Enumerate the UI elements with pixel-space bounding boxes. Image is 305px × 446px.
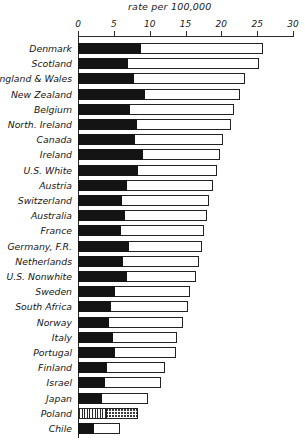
category-label: Chile (49, 423, 72, 434)
bar (78, 377, 161, 388)
x-tick-mark-10 (150, 31, 151, 37)
bar-segment-dark (78, 362, 107, 373)
bar-segment-dark (78, 119, 137, 130)
category-label: Scotland (32, 58, 72, 69)
bar (78, 149, 220, 160)
category-label: U.S. Nonwhite (6, 271, 72, 282)
bar-segment-dark (78, 286, 115, 297)
category-label: France (40, 225, 72, 236)
bar-row: Poland (0, 408, 305, 419)
bar-segment-dark (78, 423, 94, 434)
axis-title: rate per 100,000 (128, 1, 212, 12)
bar-segment-dark (78, 58, 128, 69)
bar-row: Denmark (0, 43, 305, 54)
bar-segment-dark (78, 149, 143, 160)
bar (78, 286, 190, 297)
bar (78, 225, 204, 236)
bar-segment-dark (78, 271, 127, 282)
bar (78, 119, 231, 130)
x-axis-tick-labels: 051015202530 (0, 19, 305, 32)
bar-row: Canada (0, 134, 305, 145)
category-label: U.S. White (23, 165, 72, 176)
bar-row: Belgium (0, 104, 305, 115)
category-label: Portugal (33, 347, 72, 358)
category-label: Israel (47, 377, 72, 388)
bar-row: New Zealand (0, 89, 305, 100)
category-label: Norway (37, 317, 72, 328)
bar (78, 241, 202, 252)
bar-row: Austria (0, 180, 305, 191)
bar (78, 89, 240, 100)
bar (78, 58, 259, 69)
bar-segment-dark (78, 347, 115, 358)
bar-row: North. Ireland (0, 119, 305, 130)
bar-row: Switzerland (0, 195, 305, 206)
bar (78, 347, 176, 358)
bar-row: Sweden (0, 286, 305, 297)
bar (78, 134, 223, 145)
x-tick-label-25: 25 (251, 19, 262, 29)
bar-row: Israel (0, 377, 305, 388)
bar-segment-dark (78, 134, 135, 145)
bar (78, 43, 263, 54)
category-label: Belgium (34, 104, 72, 115)
bar-segment-dark (78, 377, 105, 388)
x-tick-label-30: 30 (287, 19, 298, 29)
category-label: Sweden (35, 286, 72, 297)
bar (78, 165, 217, 176)
bar-row: Ireland (0, 149, 305, 160)
bar-segment-dark (78, 195, 122, 206)
bar-segment-dark (78, 317, 109, 328)
bar-row: Germany, F.R. (0, 241, 305, 252)
bar-segment-dark (78, 73, 134, 84)
bar-row: Italy (0, 332, 305, 343)
bar-row: U.S. Nonwhite (0, 271, 305, 282)
x-tick-label-20: 20 (216, 19, 227, 29)
bar-row: U.S. White (0, 165, 305, 176)
bar-row: South Africa (0, 301, 305, 312)
category-label: Netherlands (15, 256, 72, 267)
bar-segment-dark (78, 89, 145, 100)
bar-segment-dark (78, 256, 123, 267)
bar (78, 362, 165, 373)
bar-segment-dark (78, 165, 138, 176)
category-label: Denmark (29, 43, 72, 54)
bar-segment-dark (78, 104, 130, 115)
bar (78, 317, 183, 328)
category-label: Canada (37, 134, 72, 145)
bar-segment-dark (78, 301, 111, 312)
category-label: Germany, F.R. (7, 241, 72, 252)
bar-row: Australia (0, 210, 305, 221)
x-tick-label-5: 5 (111, 19, 117, 29)
bar-row: Portugal (0, 347, 305, 358)
category-label: North. Ireland (8, 119, 72, 130)
bar (78, 301, 188, 312)
bar (78, 210, 207, 221)
category-label: Italy (52, 332, 72, 343)
x-tick-label-0: 0 (75, 19, 81, 29)
x-tick-mark-5 (114, 31, 115, 37)
x-tick-mark-20 (221, 31, 222, 37)
bar (78, 195, 209, 206)
bar-row: Norway (0, 317, 305, 328)
category-label: Switzerland (18, 195, 72, 206)
bar-segment-dark (78, 393, 102, 404)
bar-row: Scotland (0, 58, 305, 69)
category-label: Australia (31, 210, 72, 221)
bar-segment-dark (78, 408, 107, 419)
bar (78, 271, 196, 282)
bar-row: Japan (0, 393, 305, 404)
category-label: Austria (39, 180, 72, 191)
bar (78, 393, 148, 404)
bar-row: Netherlands (0, 256, 305, 267)
bar-row: Chile (0, 423, 305, 434)
category-label: Poland (41, 408, 72, 419)
category-label: Finland (38, 362, 72, 373)
x-tick-mark-15 (186, 31, 187, 37)
x-tick-label-10: 10 (144, 19, 155, 29)
bar-segment-dark (78, 180, 127, 191)
x-tick-mark-0 (78, 31, 79, 37)
bar (78, 256, 199, 267)
category-label: Japan (46, 393, 72, 404)
bar (78, 408, 138, 419)
